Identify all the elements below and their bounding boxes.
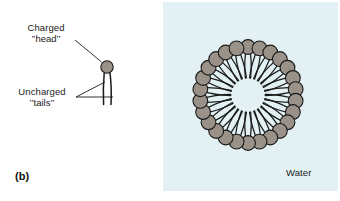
- label-uncharged-tails-line2: ’’tails’’: [10, 97, 74, 108]
- label-charged-head-line2: ’’head’’: [18, 33, 74, 44]
- panel-letter: (b): [15, 170, 29, 182]
- figure-panel-b: Charged ’’head’’ Uncharged ’’tails’’ Wat…: [0, 0, 340, 201]
- label-uncharged-tails-line1: Uncharged: [10, 86, 74, 97]
- label-charged-head-line1: Charged: [18, 22, 74, 33]
- micelle-head-circle: [229, 41, 244, 56]
- label-uncharged-tails: Uncharged ’’tails’’: [10, 86, 74, 108]
- label-charged-head: Charged ’’head’’: [18, 22, 74, 44]
- micelle-head-group: [193, 40, 303, 151]
- label-water: Water: [286, 167, 311, 178]
